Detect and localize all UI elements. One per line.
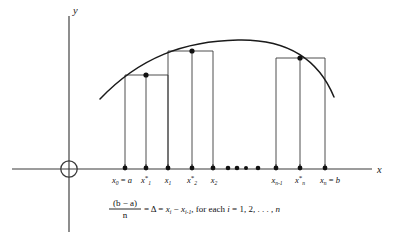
tick-label-xn: xn = b xyxy=(319,175,340,186)
tick-label-x2: x2 xyxy=(210,175,218,186)
tick-label-x1-star: x*1 xyxy=(140,174,151,186)
contact-dot-3 xyxy=(297,55,302,60)
axis-tick-marks xyxy=(125,164,325,169)
dot-xn-star xyxy=(298,166,303,171)
formula-denominator: n xyxy=(123,210,128,220)
ellipsis-dots xyxy=(226,166,261,171)
dot-x0 xyxy=(123,166,128,171)
function-curve xyxy=(100,40,334,99)
tick-label-xn-1: xn-1 xyxy=(270,175,282,186)
rect-2 xyxy=(168,51,213,169)
riemann-sum-figure: y x xyxy=(0,0,397,234)
dot-x1-star xyxy=(144,166,149,171)
rectangle-group xyxy=(125,51,325,169)
y-axis-label: y xyxy=(72,5,78,16)
dot-x2 xyxy=(211,166,216,171)
formula-body: = Δ = xi − xi-1, for each i = 1, 2, . . … xyxy=(144,204,280,215)
rect-1 xyxy=(125,75,168,169)
midpoint-ordinates xyxy=(146,51,300,169)
formula-numerator: (b − a) xyxy=(113,198,137,208)
tick-label-x1: x1 xyxy=(164,175,172,186)
partition-point-dots xyxy=(123,166,328,171)
tick-label-x0: x0 = a xyxy=(111,175,132,186)
tick-label-xn-star: x*n xyxy=(294,174,305,186)
rect-3 xyxy=(276,58,325,169)
dot-x2-star xyxy=(190,166,195,171)
formula-block: (b − a) n = Δ = xi − xi-1, for each i = … xyxy=(109,198,280,220)
dot-xn-1 xyxy=(274,166,279,171)
contact-dot-1 xyxy=(143,72,148,77)
dot-x1 xyxy=(166,166,171,171)
dot-xn xyxy=(323,166,328,171)
contact-dot-2 xyxy=(189,48,194,53)
x-axis-label: x xyxy=(376,164,382,175)
tick-label-x2-star: x*2 xyxy=(186,174,197,186)
tick-label-group: x0 = a x*1 x1 x*2 x2 xn-1 x*n xn = b xyxy=(111,174,340,186)
